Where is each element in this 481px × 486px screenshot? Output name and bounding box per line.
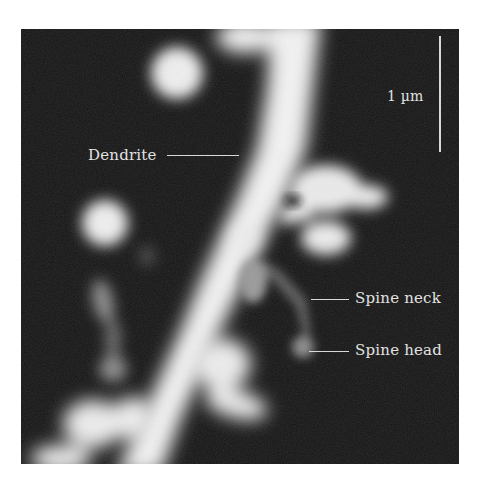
dendrite-label: Dendrite bbox=[88, 148, 157, 163]
spine-head-label: Spine head bbox=[355, 343, 442, 358]
scale-bar bbox=[439, 36, 441, 152]
micrograph-image: 1 µm Dendrite Spine neck Spine head bbox=[21, 29, 459, 464]
spine-neck-leader-line bbox=[311, 299, 349, 300]
spine-head-leader-line bbox=[309, 351, 349, 352]
scale-bar-label: 1 µm bbox=[387, 89, 424, 103]
dendrite-leader-line bbox=[167, 155, 239, 156]
spine-neck-label: Spine neck bbox=[355, 291, 441, 306]
